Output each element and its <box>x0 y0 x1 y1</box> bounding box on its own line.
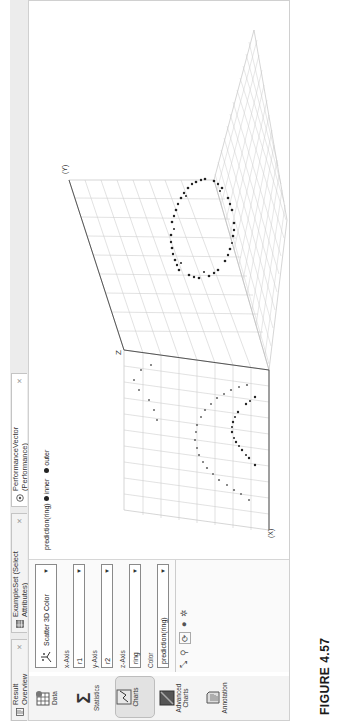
rotate-tool-icon[interactable]: ⟳ <box>179 632 191 644</box>
y-axis-select[interactable]: r2 ▼ <box>101 564 113 668</box>
axis-lines <box>69 180 269 530</box>
close-icon[interactable]: ✕ <box>16 378 24 384</box>
z-axis-select[interactable]: ring ▼ <box>129 564 141 668</box>
annotation-icon <box>205 690 221 706</box>
chevron-down-icon: ▼ <box>43 568 49 574</box>
figure-caption: FIGURE 4.57 <box>318 637 332 715</box>
floor-grid <box>214 30 287 370</box>
result-panel: Data Σ Statistics Charts Advanced Charts… <box>28 0 290 721</box>
tab-performance-vector[interactable]: PerformanceVector (Performance) ✕ <box>11 373 27 507</box>
sidebar-item-advanced-charts[interactable]: Advanced Charts <box>159 678 199 718</box>
z-axis-label: z-Axis <box>119 650 126 668</box>
color-tool-icon[interactable]: ● <box>179 622 191 627</box>
sidebar-item-annotation[interactable]: Annotation <box>205 678 241 718</box>
chevron-down-icon: ▼ <box>132 568 138 574</box>
back-wall-grid <box>124 350 269 530</box>
close-icon[interactable]: ✕ <box>16 644 24 650</box>
tab-label: ExampleSet (Select Attributes) <box>11 530 29 617</box>
divider <box>175 560 176 672</box>
y-axis-label: y-Axis <box>91 650 98 668</box>
tab-result-overview[interactable]: Result Overview ✕ <box>11 639 27 721</box>
select-tool-icon[interactable]: ⤡ <box>179 661 191 668</box>
tab-label: PerformanceVector (Performance) <box>11 390 29 491</box>
sidebar-item-statistics[interactable]: Σ Statistics <box>75 678 111 718</box>
x-axis-select[interactable]: r1 ▼ <box>73 564 85 668</box>
tab-label: Result Overview <box>11 656 29 705</box>
sidebar-item-charts[interactable]: Charts <box>115 676 155 718</box>
x-axis-letter: (X) <box>267 529 275 538</box>
rapidminer-result-view: Result Overview ✕ ExampleSet (Select Att… <box>0 0 339 721</box>
zoom-tool-icon[interactable]: ⚲ <box>179 649 191 656</box>
scatter-3d-icon <box>39 650 53 664</box>
advanced-chart-icon <box>159 690 175 706</box>
performance-vector-icon <box>16 494 24 502</box>
color-label: Color <box>147 652 154 668</box>
chart-icon <box>116 689 132 705</box>
y-axis-line <box>69 180 124 350</box>
z-axis-letter: Z <box>114 350 123 355</box>
chevron-down-icon: ▼ <box>76 568 82 574</box>
sidebar-item-data[interactable]: Data <box>35 678 71 718</box>
series-outer-points-dark <box>231 396 256 466</box>
z-axis-line <box>124 350 269 370</box>
color-select[interactable]: prediction(ring) ▼ <box>157 564 169 668</box>
plot-config-panel: Scatter 3D Color ▼ x-Axis r1 ▼ y-Axis r2… <box>29 559 289 672</box>
chevron-down-icon: ▼ <box>160 568 166 574</box>
tab-exampleset[interactable]: ExampleSet (Select Attributes) ✕ <box>11 513 27 633</box>
data-table-icon <box>35 690 51 706</box>
scatter-3d-plot[interactable]: Z (Y) (X) <box>29 0 289 560</box>
result-overview-icon <box>16 708 24 716</box>
view-mode-sidebar: Data Σ Statistics Charts Advanced Charts… <box>29 676 289 720</box>
x-axis-label: x-Axis <box>63 650 70 668</box>
exampleset-icon <box>16 620 24 628</box>
plot-toolbar: ⤡ ⚲ ⟳ ● ✲ <box>179 609 191 668</box>
side-wall-grid <box>69 180 269 370</box>
y-axis-letter: (Y) <box>61 165 69 174</box>
plotter-select[interactable]: Scatter 3D Color ▼ <box>35 564 57 668</box>
chevron-down-icon: ▼ <box>104 568 110 574</box>
sigma-icon: Σ <box>75 693 93 704</box>
scatter-settings-icon[interactable]: ✲ <box>179 609 191 617</box>
tab-strip: Result Overview ✕ ExampleSet (Select Att… <box>10 0 29 721</box>
close-icon[interactable]: ✕ <box>16 518 24 524</box>
